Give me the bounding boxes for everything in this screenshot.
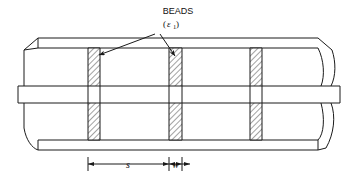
coaxial-line-figure: BEADS ( ε 1 ) s w xyxy=(0,0,356,179)
outer-conductor-top-wall xyxy=(38,38,318,48)
beads-leader-lines xyxy=(99,34,175,56)
epsilon-symbol: ε xyxy=(167,19,171,29)
dimension-label-s: s xyxy=(126,159,130,170)
inner-conductor xyxy=(18,86,340,103)
figure-canvas: BEADS ( ε 1 ) s w xyxy=(0,0,356,179)
paren-open: ( xyxy=(163,19,166,29)
beads-label: BEADS xyxy=(163,6,194,16)
beads-permittivity-label: ( ε 1 ) xyxy=(163,19,179,30)
paren-close: ) xyxy=(176,19,179,29)
dimension-label-w: w xyxy=(172,159,179,170)
outer-conductor-bottom-wall xyxy=(38,140,318,150)
